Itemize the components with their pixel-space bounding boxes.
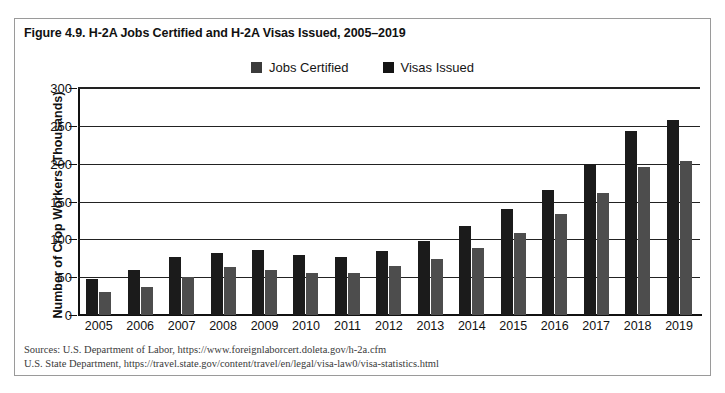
bar-visas-issued-2005: [99, 292, 111, 315]
bar-visas-issued-2015: [514, 233, 526, 315]
x-tick-label-2019: 2019: [661, 319, 697, 339]
x-tick-label-2005: 2005: [81, 319, 117, 339]
x-tick-label-2018: 2018: [620, 319, 656, 339]
x-tick-label-2013: 2013: [412, 319, 448, 339]
x-tick-label-2006: 2006: [122, 319, 158, 339]
bar-visas-issued-2006: [141, 287, 153, 315]
bar-visas-issued-2013: [431, 259, 443, 315]
bar-visas-issued-2017: [597, 193, 609, 315]
y-tick-250: [69, 126, 77, 127]
bar-group-2011: [329, 88, 365, 315]
plot-canvas: [78, 88, 700, 315]
bar-jobs-certified-2013: [418, 241, 430, 315]
y-tick-0: [69, 315, 77, 316]
x-tick-label-2011: 2011: [329, 319, 365, 339]
x-tick-label-2010: 2010: [288, 319, 324, 339]
bar-group-2008: [205, 88, 241, 315]
y-axis-tick-labels: 050100150200250300: [30, 88, 72, 315]
x-tick-label-2008: 2008: [205, 319, 241, 339]
bar-group-2013: [412, 88, 448, 315]
bar-visas-issued-2019: [680, 161, 692, 315]
bar-jobs-certified-2007: [169, 257, 181, 315]
x-tick-label-2017: 2017: [578, 319, 614, 339]
bar-group-2012: [371, 88, 407, 315]
x-tick-label-2007: 2007: [164, 319, 200, 339]
bar-group-2006: [122, 88, 158, 315]
bar-jobs-certified-2019: [667, 120, 679, 315]
bar-jobs-certified-2011: [335, 257, 347, 315]
bar-group-2017: [578, 88, 614, 315]
x-axis-tick-labels: 2005200620072008200920102011201220132014…: [78, 319, 700, 339]
x-tick-label-2014: 2014: [454, 319, 490, 339]
bar-series-container: [78, 88, 700, 315]
bar-jobs-certified-2018: [625, 131, 637, 315]
bar-jobs-certified-2017: [584, 164, 596, 315]
bar-group-2014: [454, 88, 490, 315]
bar-jobs-certified-2006: [128, 270, 140, 315]
x-tick-label-2015: 2015: [495, 319, 531, 339]
bar-visas-issued-2018: [638, 167, 650, 315]
bar-visas-issued-2010: [306, 273, 318, 315]
y-tick-300: [69, 88, 77, 89]
bar-jobs-certified-2012: [376, 251, 388, 315]
y-tick-100: [69, 239, 77, 240]
chart-area: Number of Crop Workers (Thousands) 05010…: [0, 0, 725, 393]
x-tick-label-2009: 2009: [247, 319, 283, 339]
bar-visas-issued-2016: [555, 214, 567, 315]
bar-group-2015: [495, 88, 531, 315]
bar-group-2009: [247, 88, 283, 315]
bar-jobs-certified-2016: [542, 190, 554, 315]
source-line-2: U.S. State Department, https://travel.st…: [24, 357, 664, 371]
bar-jobs-certified-2015: [501, 209, 513, 315]
bar-jobs-certified-2008: [211, 253, 223, 315]
bar-group-2007: [164, 88, 200, 315]
bar-group-2018: [620, 88, 656, 315]
bar-jobs-certified-2005: [86, 279, 98, 315]
bar-visas-issued-2009: [265, 270, 277, 315]
bar-group-2016: [537, 88, 573, 315]
x-tick-label-2016: 2016: [537, 319, 573, 339]
bar-group-2005: [81, 88, 117, 315]
bar-visas-issued-2014: [472, 248, 484, 315]
bar-visas-issued-2008: [224, 267, 236, 315]
x-tick-label-2012: 2012: [371, 319, 407, 339]
y-tick-200: [69, 164, 77, 165]
y-tick-150: [69, 202, 77, 203]
bar-group-2019: [661, 88, 697, 315]
bar-visas-issued-2012: [389, 266, 401, 315]
source-line-1: Sources: U.S. Department of Labor, https…: [24, 343, 664, 357]
bar-jobs-certified-2009: [252, 250, 264, 315]
bar-group-2010: [288, 88, 324, 315]
bar-jobs-certified-2010: [293, 255, 305, 315]
sources-note: Sources: U.S. Department of Labor, https…: [24, 343, 664, 370]
bar-jobs-certified-2014: [459, 226, 471, 315]
y-tick-50: [69, 277, 77, 278]
bar-visas-issued-2007: [182, 277, 194, 315]
bar-visas-issued-2011: [348, 273, 360, 315]
